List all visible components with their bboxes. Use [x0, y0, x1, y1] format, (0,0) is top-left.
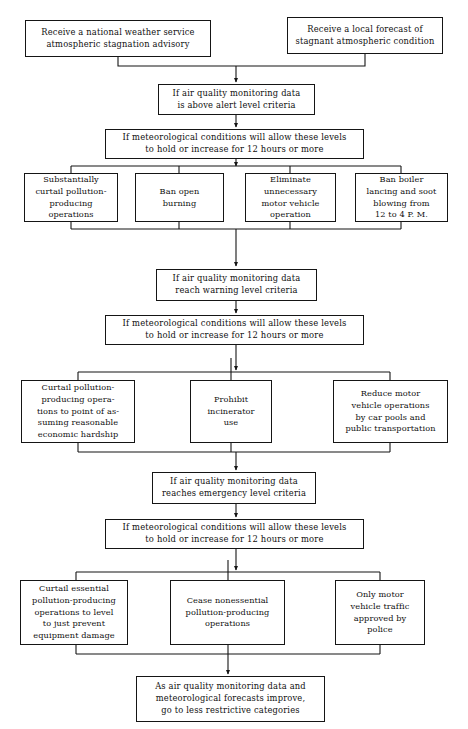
- node-emergency-action-3-label: Only motor vehicle traffic approved by p…: [339, 589, 421, 636]
- node-alert-action-3-label: Eliminate unnecessary motor vehicle oper…: [249, 174, 332, 221]
- node-warning-meteorology-label: If meteorological conditions will allow …: [109, 318, 360, 342]
- node-alert-criteria-label: If air quality monitoring data is above …: [162, 88, 311, 112]
- node-alert-action-3: Eliminate unnecessary motor vehicle oper…: [245, 173, 336, 222]
- flowchart-canvas: Receive a national weather service atmos…: [0, 0, 468, 729]
- node-alert-action-4: Ban boiler lancing and soot blowing from…: [355, 173, 448, 222]
- node-alert-action-2: Ban open burning: [135, 173, 224, 222]
- node-recovery: As air quality monitoring data and meteo…: [136, 676, 325, 722]
- node-alert-action-1-label: Substantially curtail pollution- produci…: [28, 174, 114, 221]
- node-alert-criteria: If air quality monitoring data is above …: [158, 84, 315, 115]
- node-warning-action-3-label: Reduce motor vehicle operations by car p…: [337, 388, 444, 435]
- node-alert-action-4-label: Ban boiler lancing and soot blowing from…: [359, 174, 444, 221]
- node-emergency-action-2: Cease nonessential pollution-producing o…: [170, 580, 285, 645]
- node-emergency-action-1: Curtail essential pollution-producing op…: [20, 580, 128, 645]
- node-emergency-meteorology-label: If meteorological conditions will allow …: [109, 522, 360, 546]
- node-warning-meteorology: If meteorological conditions will allow …: [105, 315, 364, 345]
- node-trigger-local: Receive a local forecast of stagnant atm…: [287, 17, 443, 54]
- node-warning-action-1-label: Curtail pollution- producing opera- tion…: [25, 382, 131, 440]
- node-emergency-action-3: Only motor vehicle traffic approved by p…: [335, 580, 425, 645]
- node-trigger-national-label: Receive a national weather service atmos…: [29, 27, 207, 51]
- node-warning-action-3: Reduce motor vehicle operations by car p…: [333, 380, 448, 443]
- node-trigger-local-label: Receive a local forecast of stagnant atm…: [291, 24, 439, 48]
- node-warning-action-2: Prohibit incinerator use: [190, 380, 272, 443]
- node-warning-criteria: If air quality monitoring data reach war…: [156, 269, 317, 301]
- node-emergency-action-2-label: Cease nonessential pollution-producing o…: [174, 595, 281, 630]
- node-trigger-national: Receive a national weather service atmos…: [25, 20, 211, 57]
- node-alert-action-1: Substantially curtail pollution- produci…: [24, 173, 118, 222]
- node-recovery-label: As air quality monitoring data and meteo…: [140, 681, 321, 716]
- node-alert-action-2-label: Ban open burning: [139, 186, 220, 209]
- node-alert-meteorology: If meteorological conditions will allow …: [105, 129, 364, 159]
- node-alert-meteorology-label: If meteorological conditions will allow …: [109, 132, 360, 156]
- node-emergency-meteorology: If meteorological conditions will allow …: [105, 519, 364, 549]
- node-emergency-criteria: If air quality monitoring data reaches e…: [152, 472, 316, 504]
- node-warning-action-2-label: Prohibit incinerator use: [194, 394, 268, 429]
- node-emergency-criteria-label: If air quality monitoring data reaches e…: [156, 476, 312, 500]
- node-emergency-action-1-label: Curtail essential pollution-producing op…: [24, 583, 124, 641]
- node-warning-action-1: Curtail pollution- producing opera- tion…: [21, 380, 135, 443]
- node-warning-criteria-label: If air quality monitoring data reach war…: [160, 273, 313, 297]
